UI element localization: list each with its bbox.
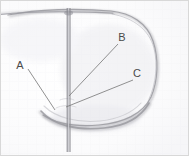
label-a: A (16, 59, 24, 71)
sketch-canvas: A B C (0, 0, 189, 156)
label-b: B (118, 31, 125, 43)
vertical-axis-head (64, 11, 73, 16)
sketch-figure: A B C (0, 0, 189, 156)
label-c: C (133, 67, 141, 79)
